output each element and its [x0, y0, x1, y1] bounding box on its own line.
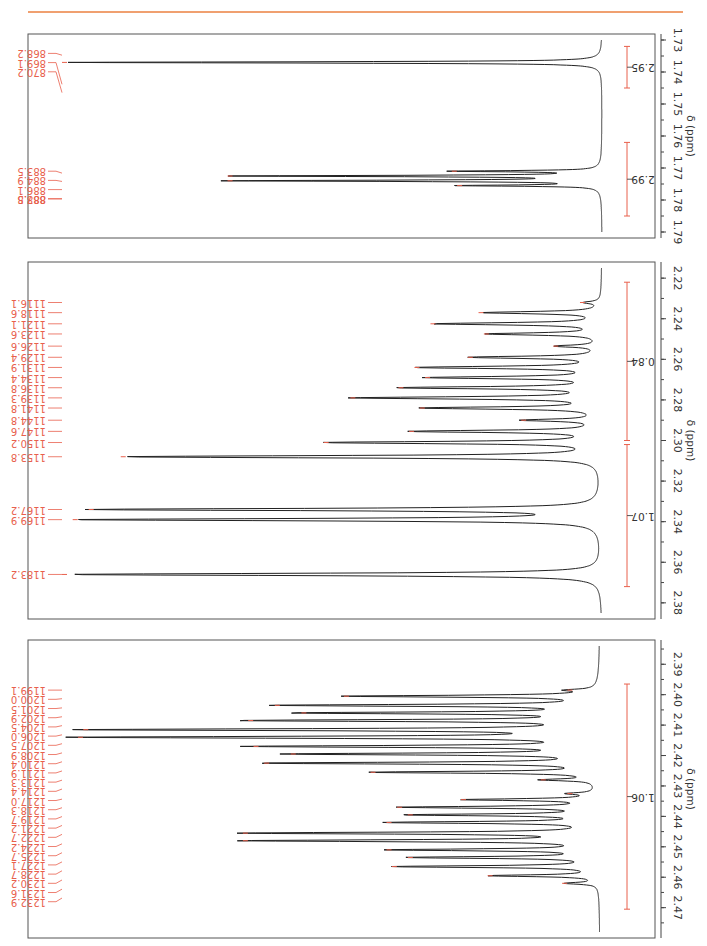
peak-label-leader	[48, 889, 62, 892]
spectrum-trace	[75, 268, 602, 613]
peak-label: 1232.9	[11, 897, 46, 908]
axis-tick-label: 1.77	[671, 156, 684, 181]
peak-label-leader	[48, 53, 62, 55]
peak-label-leader	[48, 762, 62, 764]
peak-label: 1134.4	[11, 373, 46, 384]
integral-value: 0.84	[631, 356, 655, 368]
peak-label-leader	[48, 834, 62, 837]
axis-title: δ (ppm)	[685, 115, 697, 157]
axis-tick-label: 2.38	[671, 591, 684, 616]
peak-label-leader	[48, 744, 62, 746]
axis-tick-label: 2.30	[671, 428, 684, 453]
axis-tick-label: 2.26	[671, 347, 684, 372]
peak-label-leader	[48, 72, 62, 93]
peak-label-leader	[48, 753, 62, 755]
peak-label: 1153.8	[11, 452, 46, 463]
axis-tick-label: 2.28	[671, 388, 684, 413]
peak-label: 1126.6	[11, 341, 46, 352]
axis-tick-label: 2.22	[671, 266, 684, 291]
peak-label-leader	[48, 808, 62, 810]
axis-tick-label: 1.78	[671, 188, 684, 213]
peak-label: 1150.2	[11, 438, 46, 449]
axis-tick-label: 2.36	[671, 550, 684, 575]
integral-value: 1.07	[631, 511, 654, 523]
header-rule	[28, 11, 683, 13]
peak-label-leader	[48, 180, 62, 181]
axis-tick-label: 1.75	[671, 92, 684, 117]
integral-value: 1.06	[631, 792, 655, 804]
peak-label-leader	[48, 799, 62, 800]
peak-label: 888.8	[17, 194, 46, 205]
axis-tick-label: 2.34	[671, 509, 684, 534]
nmr-spectrum-page: 1.731.741.751.761.771.781.79δ (ppm)868.2…	[0, 0, 707, 946]
peak-label-leader	[48, 789, 62, 791]
peak-label: 1167.2	[11, 505, 46, 516]
peak-label-leader	[48, 817, 62, 819]
axis-tick-label: 1.76	[671, 124, 684, 149]
peak-label: 1136.8	[11, 383, 46, 394]
peak-label: 1147.6	[11, 426, 46, 437]
axis-tick-label: 2.45	[671, 835, 684, 860]
peak-label-leader	[48, 171, 62, 173]
peak-label-leader	[48, 871, 62, 874]
axis-tick-label: 2.24	[671, 306, 684, 331]
spectrum-trace	[66, 646, 600, 932]
spectrum-panel-2: 2.222.242.262.282.302.322.342.362.38δ (p…	[11, 262, 697, 619]
plot-frame	[28, 262, 655, 619]
peak-label: 1131.9	[11, 362, 46, 373]
axis-tick-label: 2.44	[671, 804, 684, 829]
peak-label: 1121.1	[11, 319, 46, 330]
axis-tick-label: 2.40	[671, 682, 684, 707]
axis-title: δ (ppm)	[685, 768, 697, 810]
plot-frame	[28, 640, 655, 938]
axis-title: δ (ppm)	[685, 420, 697, 462]
peak-label-leader	[48, 726, 62, 727]
axis-tick-label: 2.46	[671, 865, 684, 890]
peak-label: 870.2	[17, 67, 46, 78]
peak-label-leader	[48, 771, 62, 773]
spectrum-panel-1: 1.731.741.751.761.771.781.79δ (ppm)868.2…	[17, 28, 697, 245]
peak-label: 1129.4	[11, 352, 46, 363]
axis-tick-label: 1.74	[671, 60, 684, 85]
axis-tick-label: 2.43	[671, 774, 684, 799]
peak-label: 1169.9	[11, 515, 46, 526]
peak-label-leader	[48, 844, 62, 847]
peak-label-leader	[48, 63, 62, 85]
peak-label: 1116.1	[11, 298, 46, 309]
peak-label-leader	[48, 699, 62, 700]
peak-label-leader	[48, 898, 62, 902]
peak-label: 1123.6	[11, 329, 46, 340]
peak-label-leader	[48, 735, 62, 736]
peak-label-leader	[48, 880, 62, 883]
axis-tick-label: 2.39	[671, 652, 684, 677]
peak-label-leader	[48, 708, 62, 709]
peak-label: 1144.8	[11, 415, 46, 426]
peak-label-leader	[48, 853, 62, 856]
spectrum-trace	[68, 40, 602, 232]
nmr-spectrum-figure: 1.731.741.751.761.771.781.79δ (ppm)868.2…	[0, 0, 707, 946]
axis-tick-label: 2.41	[671, 713, 684, 738]
axis-tick-label: 2.42	[671, 743, 684, 768]
peak-label-leader	[48, 825, 62, 828]
integral-value: 2.95	[631, 62, 654, 74]
peak-label: 1118.6	[11, 308, 46, 319]
axis-tick-label: 1.73	[671, 28, 684, 53]
axis-tick-label: 2.32	[671, 469, 684, 494]
integral-value: 2.99	[631, 174, 654, 186]
spectrum-panel-3: 2.392.402.412.422.432.442.452.462.47δ (p…	[11, 640, 697, 938]
axis-tick-label: 2.47	[671, 895, 684, 920]
peak-label-leader	[48, 862, 62, 865]
peak-label: 1139.3	[11, 393, 46, 404]
peak-label: 1141.8	[11, 403, 46, 414]
peak-label-leader	[48, 780, 62, 782]
axis-tick-label: 1.79	[671, 220, 684, 245]
peak-label-leader	[48, 717, 62, 718]
peak-label: 1183.2	[11, 569, 46, 580]
